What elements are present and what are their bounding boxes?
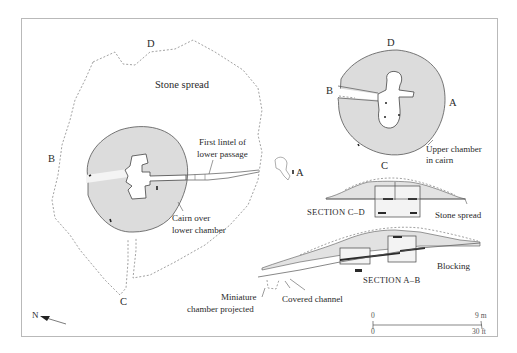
slab (410, 212, 417, 214)
cairn-label-line1: Cairn over (172, 213, 210, 223)
leader-line (290, 279, 305, 290)
slab (393, 236, 402, 238)
first-lintel-label-line1: First lintel of (199, 137, 246, 147)
section-ab-caption: SECTION A–B (363, 275, 421, 285)
leader-line (262, 288, 265, 297)
upper-chamber-label-line1: Upper chamber (426, 144, 482, 154)
upper-point-label-d: D (387, 37, 395, 48)
lower-passage (186, 170, 259, 180)
kerb-mark (110, 219, 111, 222)
blocking-label: Blocking (437, 261, 470, 271)
lintel-marks (195, 174, 205, 180)
slab (378, 212, 386, 214)
point-label-c: C (120, 296, 127, 307)
slab (355, 269, 362, 272)
point-label-d: D (147, 38, 155, 49)
leader-line (209, 160, 213, 174)
section-ab: SECTION A–B Blocking Covered channel (258, 227, 480, 304)
upper-chamber-label-line2: in cairn (426, 155, 454, 165)
point-label-b: B (48, 153, 55, 164)
section-cd-stone-spread-label: Stone spread (435, 210, 482, 220)
point-label-a: A (296, 167, 304, 178)
scale-metric-end: 9 m (475, 311, 487, 320)
section-ab-lower-chamber (340, 248, 370, 264)
upper-point-label-c: C (381, 160, 388, 171)
upper-point-label-a: A (449, 97, 457, 108)
north-arrow-icon: N (32, 310, 66, 324)
leader-line (178, 202, 183, 211)
scale-bar: 0 9 m 0 30 ft (371, 311, 487, 336)
archaeological-figure: D B C A Stone spread First lintel of low… (0, 0, 517, 353)
scale-imperial-end: 30 ft (472, 327, 487, 336)
miniature-label-line1: Miniature (221, 292, 257, 302)
first-lintel-label-line2: lower passage (197, 149, 248, 159)
miniature-label-line2: chamber projected (187, 304, 254, 314)
stone-spread-label: Stone spread (155, 79, 210, 90)
upper-plan: D B A C Upper chamber in cairn (326, 37, 482, 171)
leader-line (285, 281, 290, 288)
lower-plan: D B C A Stone spread First lintel of low… (48, 38, 304, 314)
leader-line (465, 199, 467, 204)
covered-channel-label: Covered channel (282, 294, 343, 304)
section-cd-caption: SECTION C–D (307, 207, 365, 217)
miniature-chamber-projected (267, 280, 279, 289)
north-label: N (32, 310, 39, 320)
cairn-label-line2: lower chamber (172, 225, 226, 235)
section-cd: SECTION C–D Stone spread (307, 178, 482, 220)
scale-metric-start: 0 (371, 311, 375, 320)
north-arrow-head (40, 316, 50, 321)
upper-point-label-b: B (326, 85, 333, 96)
kerb-mark (89, 175, 91, 176)
scale-imperial-start: 0 (371, 327, 375, 336)
kerb-mark (358, 144, 359, 146)
miniature-chamber (275, 157, 290, 180)
figure-canvas: D B C A Stone spread First lintel of low… (0, 0, 517, 353)
